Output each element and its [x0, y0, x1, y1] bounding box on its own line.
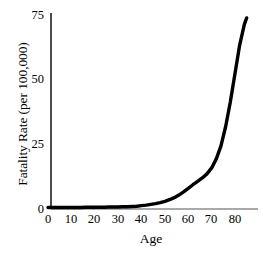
plot-area — [0, 0, 263, 260]
chart-figure: Fatality Rate (per 100,000) 75 50 25 0 0… — [0, 0, 263, 260]
fatality-rate-line — [48, 18, 247, 208]
